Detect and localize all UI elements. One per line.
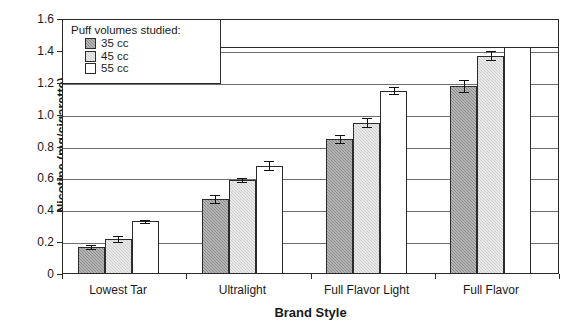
bar-55cc-full-flavor — [504, 37, 531, 275]
x-category-label: Lowest Tar — [89, 283, 147, 297]
legend-item-35cc: 35 cc — [85, 38, 220, 50]
error-bar-cap-lower — [389, 94, 399, 95]
y-tick-label: 1.2 — [8, 77, 54, 89]
bar-35cc-ultralight — [202, 199, 229, 274]
error-bar-cap-upper — [113, 236, 123, 237]
y-tick-label: 1.4 — [8, 45, 54, 57]
y-tick-label: 0.2 — [8, 236, 54, 248]
error-bar — [367, 118, 368, 128]
bar-35cc-full-flavor-light — [326, 139, 353, 275]
bar-45cc-lowest-tar — [105, 239, 132, 274]
error-bar-cap-lower — [335, 143, 345, 144]
bar-45cc-full-flavor — [477, 56, 504, 274]
error-bar-cap-upper — [237, 178, 247, 179]
legend-item-55cc: 55 cc — [85, 63, 220, 75]
error-bar — [394, 87, 395, 94]
legend: Puff volumes studied: 35 cc 45 cc 55 cc — [63, 20, 221, 84]
error-bar-cap-upper — [459, 80, 469, 81]
bar-35cc-full-flavor — [450, 86, 477, 274]
bar-55cc-lowest-tar — [132, 221, 159, 274]
error-bar-cap-lower — [86, 249, 96, 250]
y-tick-label: 1.6 — [8, 13, 54, 25]
legend-title: Puff volumes studied: — [71, 24, 220, 36]
legend-label-35cc: 35 cc — [101, 38, 129, 50]
y-tick-label: 0 — [8, 268, 54, 280]
x-category-label: Full Flavor Light — [324, 283, 409, 297]
x-tick-mark — [62, 274, 63, 279]
legend-swatch-55cc — [85, 63, 96, 74]
y-tick-label: 0.6 — [8, 172, 54, 184]
error-bar-cap-upper — [486, 51, 496, 52]
y-tick-label: 1.0 — [8, 109, 54, 121]
error-bar-cap-lower — [210, 203, 220, 204]
error-bar-cap-lower — [459, 92, 469, 93]
bar-45cc-full-flavor-light — [353, 123, 380, 274]
y-tick-label: 0.4 — [8, 204, 54, 216]
legend-item-45cc: 45 cc — [85, 51, 220, 63]
x-tick-mark — [311, 274, 312, 279]
x-axis-title: Brand Style — [62, 305, 559, 320]
x-tick-mark — [435, 274, 436, 279]
x-tick-mark — [186, 274, 187, 279]
error-bar — [269, 161, 270, 171]
error-bar-cap-lower — [237, 182, 247, 183]
x-tick-mark — [559, 274, 560, 279]
x-category-label: Ultralight — [219, 283, 266, 297]
error-bar-cap-upper — [389, 87, 399, 88]
legend-extension-band — [221, 20, 558, 48]
y-tick-label: 0.8 — [8, 141, 54, 153]
error-bar-cap-lower — [140, 223, 150, 224]
error-bar-cap-upper — [362, 118, 372, 119]
bar-45cc-ultralight — [229, 180, 256, 274]
error-bar-cap-upper — [264, 161, 274, 162]
error-bar-cap-upper — [210, 195, 220, 196]
error-bar-cap-lower — [113, 242, 123, 243]
bar-35cc-lowest-tar — [78, 247, 105, 274]
bar-chart-figure: Nicotine (mg/cigarette) 00.20.40.60.81.0… — [0, 0, 570, 333]
error-bar — [491, 51, 492, 61]
error-bar-cap-upper — [335, 135, 345, 136]
legend-swatch-35cc — [85, 38, 96, 49]
legend-label-45cc: 45 cc — [101, 51, 129, 63]
error-bar — [215, 195, 216, 203]
error-bar-cap-lower — [486, 60, 496, 61]
bar-55cc-ultralight — [256, 166, 283, 274]
error-bar-cap-lower — [362, 127, 372, 128]
error-bar-cap-upper — [86, 245, 96, 246]
error-bar-cap-lower — [264, 170, 274, 171]
error-bar — [340, 135, 341, 143]
bar-55cc-full-flavor-light — [380, 91, 407, 274]
error-bar-cap-upper — [140, 220, 150, 221]
error-bar — [464, 80, 465, 91]
legend-swatch-45cc — [85, 51, 96, 62]
x-category-label: Full Flavor — [463, 283, 519, 297]
legend-label-55cc: 55 cc — [101, 63, 129, 75]
